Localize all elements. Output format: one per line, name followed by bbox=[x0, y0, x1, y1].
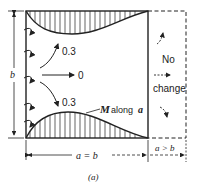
label-ratio-bottom: 0.3 bbox=[62, 97, 76, 108]
svg-text:along: along bbox=[111, 105, 133, 115]
no-change-region: No change bbox=[153, 33, 186, 117]
svg-text:a = b: a = b bbox=[76, 150, 98, 161]
figure-caption: (a) bbox=[88, 172, 99, 182]
plate-extension bbox=[148, 11, 186, 138]
svg-text:No: No bbox=[162, 54, 175, 65]
dimension-b: b bbox=[8, 11, 24, 138]
label-b: b bbox=[10, 69, 15, 80]
svg-text:M: M bbox=[99, 103, 111, 115]
svg-text:a: a bbox=[138, 104, 143, 115]
label-ratio-mid: 0 bbox=[78, 70, 84, 81]
svg-text:change: change bbox=[153, 83, 186, 94]
plate-moment-diagram: b bbox=[0, 0, 198, 193]
dimension-a-gt-b: a > b bbox=[150, 140, 186, 162]
edge-rotation-icons bbox=[24, 28, 32, 127]
label-moment-along-a: M along a bbox=[86, 103, 143, 115]
svg-text:a > b: a > b bbox=[155, 143, 175, 153]
moment-curve-top bbox=[26, 11, 148, 40]
label-ratio-top: 0.3 bbox=[62, 46, 76, 57]
dimension-a-eq-b: a = b bbox=[26, 140, 148, 162]
